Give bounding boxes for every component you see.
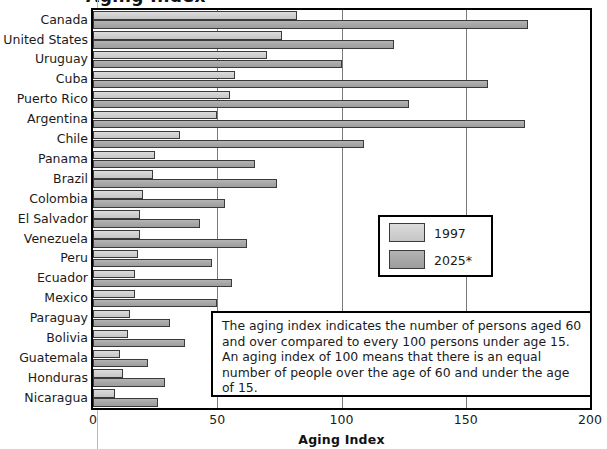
chart-title-clipped: Aging Index bbox=[86, 0, 206, 6]
category-label-peru: Peru bbox=[2, 252, 88, 265]
x-tick-200: 200 bbox=[578, 412, 602, 427]
x-axis: Aging Index 050100150200 bbox=[91, 410, 592, 449]
category-label-paraguay: Paraguay bbox=[2, 312, 88, 325]
bar bbox=[93, 20, 528, 28]
bar bbox=[93, 299, 217, 307]
category-label-el-salvador: El Salvador bbox=[2, 213, 88, 226]
aging-index-chart-figure: Aging Index CanadaUnited StatesUruguayCu… bbox=[0, 0, 607, 449]
category-label-united-states: United States bbox=[2, 34, 88, 47]
x-tick-0: 0 bbox=[89, 412, 97, 427]
bar bbox=[93, 219, 200, 227]
bar bbox=[93, 259, 212, 267]
bar bbox=[93, 120, 525, 128]
bar bbox=[93, 239, 247, 247]
bar bbox=[93, 80, 488, 88]
bar bbox=[93, 190, 143, 198]
legend-label-1997: 1997 bbox=[434, 226, 466, 241]
x-tick-100: 100 bbox=[330, 412, 354, 427]
bar bbox=[93, 330, 128, 338]
bar bbox=[93, 210, 140, 218]
bar bbox=[93, 230, 140, 238]
category-label-canada: Canada bbox=[2, 14, 88, 27]
bar bbox=[93, 100, 409, 108]
category-label-mexico: Mexico bbox=[2, 292, 88, 305]
bar bbox=[93, 140, 364, 148]
category-label-puerto-rico: Puerto Rico bbox=[2, 93, 88, 106]
bar bbox=[93, 91, 230, 99]
legend-label-2025: 2025* bbox=[434, 253, 472, 268]
category-label-ecuador: Ecuador bbox=[2, 272, 88, 285]
category-label-bolivia: Bolivia bbox=[2, 332, 88, 345]
bar bbox=[93, 179, 277, 187]
bar bbox=[93, 40, 394, 48]
bar bbox=[93, 51, 267, 59]
bar bbox=[93, 31, 282, 39]
bar bbox=[93, 71, 235, 79]
bar bbox=[93, 60, 342, 68]
bar bbox=[93, 359, 148, 367]
bar bbox=[93, 290, 135, 298]
category-label-panama: Panama bbox=[2, 153, 88, 166]
category-label-brazil: Brazil bbox=[2, 173, 88, 186]
bar bbox=[93, 378, 165, 386]
bar bbox=[93, 11, 297, 19]
x-tick-50: 50 bbox=[209, 412, 225, 427]
legend-swatch-1997 bbox=[389, 223, 425, 242]
bar bbox=[93, 170, 153, 178]
category-label-colombia: Colombia bbox=[2, 193, 88, 206]
category-label-argentina: Argentina bbox=[2, 113, 88, 126]
bar bbox=[93, 160, 255, 168]
category-axis-labels: CanadaUnited StatesUruguayCubaPuerto Ric… bbox=[0, 8, 88, 410]
bar bbox=[93, 250, 138, 258]
legend: 1997 2025* bbox=[378, 215, 493, 277]
x-tick-150: 150 bbox=[454, 412, 478, 427]
legend-swatch-2025 bbox=[389, 250, 425, 269]
category-label-venezuela: Venezuela bbox=[2, 233, 88, 246]
bar bbox=[93, 369, 123, 377]
category-label-uruguay: Uruguay bbox=[2, 53, 88, 66]
bar bbox=[93, 310, 130, 318]
bar bbox=[93, 389, 115, 397]
note-text: The aging index indicates the number of … bbox=[222, 318, 582, 396]
category-label-nicaragua: Nicaragua bbox=[2, 392, 88, 405]
bar bbox=[93, 151, 155, 159]
category-label-honduras: Honduras bbox=[2, 372, 88, 385]
bar bbox=[93, 131, 180, 139]
bar bbox=[93, 350, 120, 358]
category-label-guatemala: Guatemala bbox=[2, 352, 88, 365]
category-label-cuba: Cuba bbox=[2, 73, 88, 86]
bar bbox=[93, 398, 158, 406]
note-box: The aging index indicates the number of … bbox=[211, 311, 592, 397]
bar bbox=[93, 270, 135, 278]
x-axis-title: Aging Index bbox=[91, 432, 592, 447]
bar bbox=[93, 279, 232, 287]
bar bbox=[93, 111, 217, 119]
bar bbox=[93, 319, 170, 327]
bar bbox=[93, 199, 225, 207]
bar bbox=[93, 339, 185, 347]
category-label-chile: Chile bbox=[2, 133, 88, 146]
